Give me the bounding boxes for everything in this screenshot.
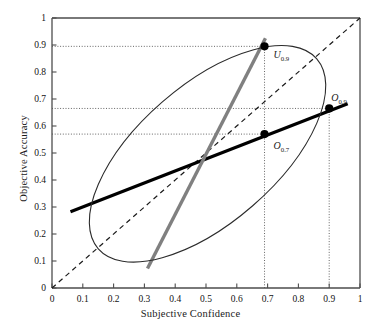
x-tick-label: 1 [358, 294, 363, 304]
point-label-symbol: O [274, 140, 281, 151]
x-tick-label: 0.7 [262, 294, 274, 304]
y-tick-label: 0.8 [22, 67, 46, 77]
point-label-subscript: 0.9 [281, 55, 290, 62]
x-tick-label: 0.4 [169, 294, 181, 304]
x-tick-label: 0.6 [231, 294, 243, 304]
data-series-group [52, 7, 362, 301]
x-tick-label: 0.1 [77, 294, 89, 304]
point-label-symbol: U [274, 49, 281, 60]
data-point-o-0.7[interactable] [260, 130, 268, 138]
point-label-o-0.7: O0.7 [274, 140, 290, 153]
x-tick-label: 0 [50, 294, 55, 304]
y-tick-label: 1 [22, 13, 46, 23]
y-axis-title: Objective Accuracy [18, 89, 29, 229]
x-tick-label: 0.3 [138, 294, 150, 304]
point-label-o-0.9: O0.9 [331, 92, 347, 105]
x-axis-title: Subjective Confidence [0, 308, 381, 319]
y-tick-label: 0 [22, 283, 46, 293]
x-tick-label: 0.9 [323, 294, 335, 304]
data-point-o-0.9[interactable] [325, 104, 333, 112]
plot-canvas [0, 0, 381, 331]
point-label-subscript: 0.9 [338, 98, 347, 105]
x-tick-label: 0.5 [200, 294, 212, 304]
point-label-u-0.9: U0.9 [274, 49, 290, 62]
y-tick-label: 0.1 [22, 256, 46, 266]
steep-line [147, 38, 265, 268]
data-point-u-0.9[interactable] [260, 42, 268, 50]
y-tick-label: 0.2 [22, 229, 46, 239]
point-label-subscript: 0.7 [281, 146, 290, 153]
x-tick-label: 0.2 [108, 294, 120, 304]
x-tick-label: 0.8 [292, 294, 304, 304]
y-tick-label: 0.9 [22, 40, 46, 50]
scatter-plot-figure: 00.10.20.30.40.50.60.70.80.9100.10.20.30… [0, 0, 381, 331]
